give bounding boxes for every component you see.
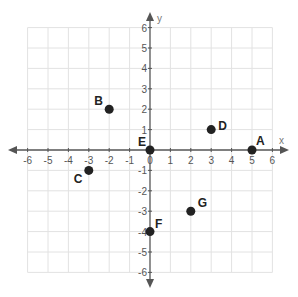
x-axis-right-arrow-icon — [280, 146, 289, 154]
y-tick-label: 5 — [141, 43, 147, 54]
point-b — [105, 105, 114, 114]
x-tick-label: 0 — [147, 155, 153, 166]
point-label-c: C — [74, 172, 83, 186]
x-tick-label: 2 — [188, 155, 194, 166]
x-tick-label: 6 — [270, 155, 276, 166]
x-tick-label: -1 — [125, 155, 134, 166]
x-tick-label: -2 — [105, 155, 114, 166]
y-axis-down-arrow-icon — [146, 279, 154, 288]
point-label-e: E — [138, 135, 146, 149]
y-tick-label: 3 — [141, 84, 147, 95]
y-tick-label: 2 — [141, 104, 147, 115]
point-label-f: F — [155, 217, 162, 231]
y-tick-label: -2 — [138, 186, 147, 197]
y-tick-label: 6 — [141, 23, 147, 34]
x-axis-label: x — [279, 135, 284, 146]
point-label-g: G — [198, 196, 207, 210]
x-tick-label: -3 — [84, 155, 93, 166]
x-axis-left-arrow-icon — [8, 146, 17, 154]
y-tick-label: 4 — [141, 63, 147, 74]
point-label-b: B — [94, 94, 103, 108]
y-tick-label: -1 — [138, 165, 147, 176]
x-tick-label: -4 — [64, 155, 73, 166]
point-f — [146, 227, 155, 236]
x-tick-label: 4 — [229, 155, 235, 166]
y-tick-label: -6 — [138, 267, 147, 278]
point-g — [186, 207, 195, 216]
y-tick-label: 1 — [141, 125, 147, 136]
y-axis-label: y — [157, 13, 162, 24]
y-tick-label: -5 — [138, 247, 147, 258]
point-e — [146, 146, 155, 155]
point-label-a: A — [256, 134, 265, 148]
y-tick-label: -3 — [138, 206, 147, 217]
point-c — [84, 166, 93, 175]
x-tick-label: 5 — [249, 155, 255, 166]
point-d — [207, 125, 216, 134]
x-tick-label: 3 — [208, 155, 214, 166]
x-tick-label: -5 — [44, 155, 53, 166]
coordinate-plane: xy -6-5-4-3-2-10123456-6-5-4-3-2-1123456… — [0, 0, 298, 297]
x-tick-label: 1 — [168, 155, 174, 166]
x-tick-label: -6 — [23, 155, 32, 166]
y-axis-up-arrow-icon — [146, 12, 154, 21]
point-label-d: D — [218, 119, 227, 133]
